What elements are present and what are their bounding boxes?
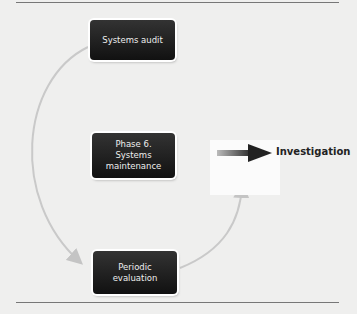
- investigation-label: Investigation: [276, 146, 350, 157]
- node-periodic-evaluation: Periodic evaluation: [93, 251, 177, 294]
- node-systems-audit: Systems audit: [90, 20, 175, 60]
- arrow-right-icon: [0, 0, 357, 314]
- node-systems-maintenance: Phase 6. Systems maintenance: [92, 133, 175, 178]
